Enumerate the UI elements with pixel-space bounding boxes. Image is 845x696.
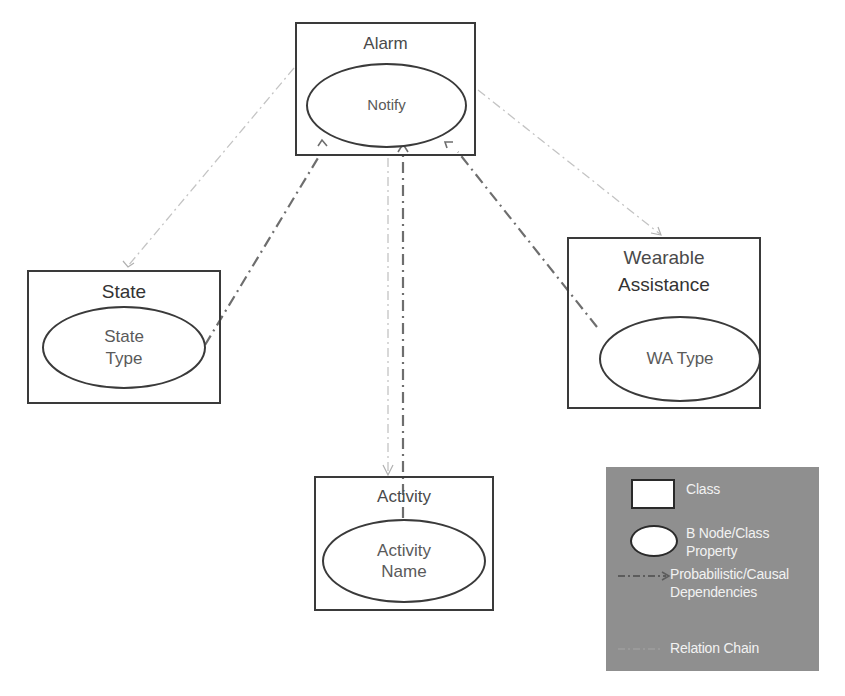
legend-class-label: Class xyxy=(686,481,720,497)
node-label-state-type-1: State xyxy=(104,326,144,347)
legend-dependency-label-2: Dependencies xyxy=(670,584,757,600)
legend-node-label-2: Property xyxy=(686,543,737,559)
legend-dependency-arrow-icon xyxy=(616,570,676,582)
causal-dependency-state-notify xyxy=(205,140,327,345)
class-title-alarm: Alarm xyxy=(297,34,474,53)
diagram-canvas: Alarm Notify State State Type Wearable A… xyxy=(0,0,845,696)
node-wa-type[interactable]: WA Type xyxy=(599,316,761,402)
node-label-notify: Notify xyxy=(367,96,405,115)
class-title-activity: Activity xyxy=(316,487,492,506)
node-label-activity-name-1: Activity xyxy=(377,540,431,561)
class-title-state: State xyxy=(29,281,219,302)
node-state-type[interactable]: State Type xyxy=(42,306,206,389)
legend: Class B Node/Class Property Probabilisti… xyxy=(606,467,819,671)
node-activity-name[interactable]: Activity Name xyxy=(322,519,486,603)
node-label-wa-type: WA Type xyxy=(646,348,713,369)
node-label-state-type-2: Type xyxy=(106,348,143,369)
class-title-wearable-1: Wearable xyxy=(569,247,759,268)
node-label-activity-name-2: Name xyxy=(381,561,426,582)
relation-chain-alarm-activity xyxy=(383,158,393,475)
legend-node-label-1: B Node/Class xyxy=(686,525,769,541)
legend-relation-label: Relation Chain xyxy=(670,640,759,656)
causal-dependency-activity-notify xyxy=(398,144,408,518)
relation-chain-alarm-state xyxy=(123,68,294,267)
legend-dependency-label-1: Probabilistic/Causal xyxy=(670,566,789,582)
legend-class-symbol xyxy=(631,479,675,509)
legend-node-symbol xyxy=(630,525,678,557)
legend-relation-line-icon xyxy=(616,645,666,653)
class-title-wearable-2: Assistance xyxy=(569,274,759,295)
node-notify[interactable]: Notify xyxy=(306,63,467,148)
